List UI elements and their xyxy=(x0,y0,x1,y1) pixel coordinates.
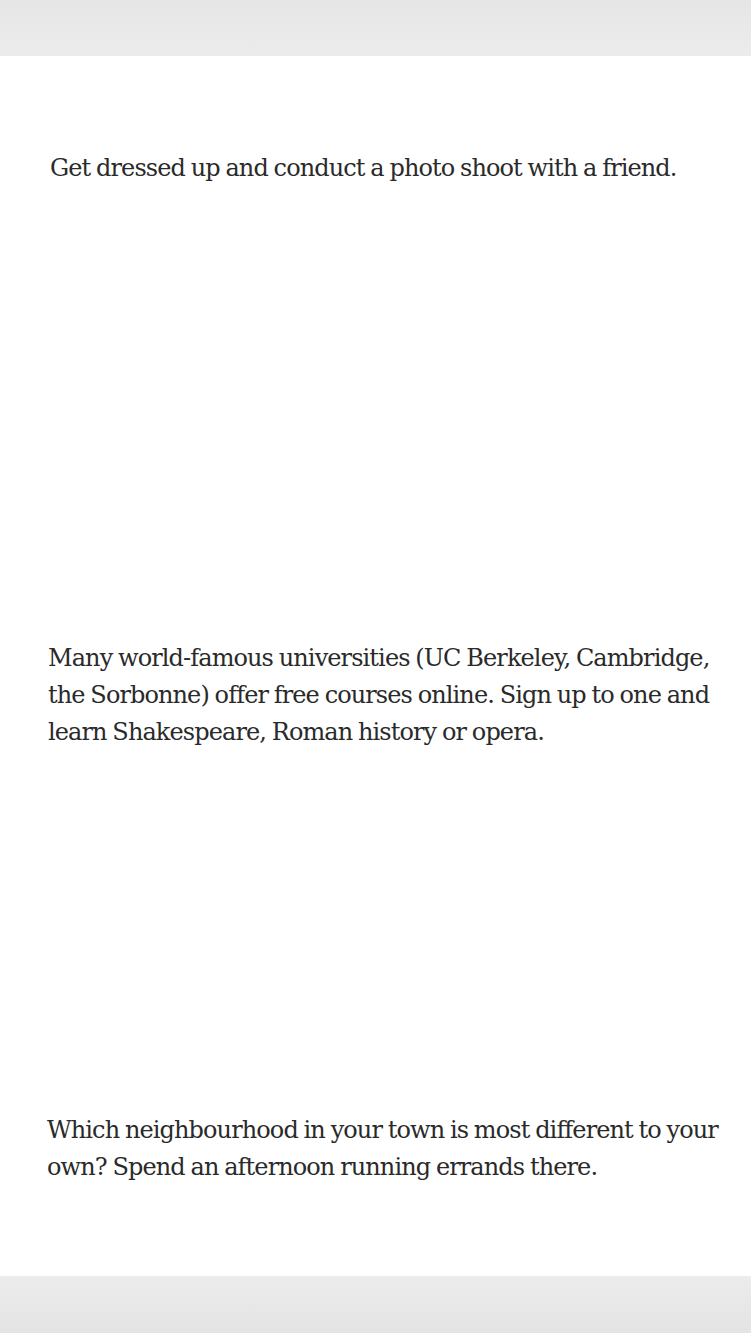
paragraph-online-courses: Many world-famous universities (UC Berke… xyxy=(48,640,748,751)
paragraph-photo-shoot: Get dressed up and conduct a photo shoot… xyxy=(50,150,740,187)
top-background-band xyxy=(0,0,751,58)
paragraph-neighbourhood: Which neighbourhood in your town is most… xyxy=(47,1112,737,1186)
document-page: Get dressed up and conduct a photo shoot… xyxy=(0,56,751,1277)
bottom-background-band xyxy=(0,1276,751,1333)
